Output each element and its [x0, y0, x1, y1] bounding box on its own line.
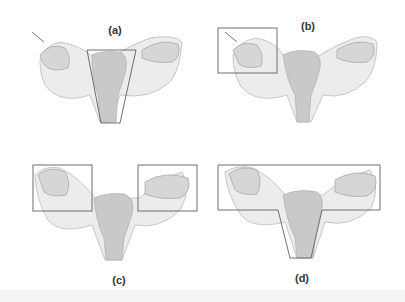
panel-c: (c)	[0, 150, 200, 300]
uterus-illustration-b	[205, 0, 405, 150]
panel-a: (a)	[0, 0, 200, 150]
uterus-drawing	[225, 32, 377, 122]
uterus-illustration-a	[0, 0, 200, 150]
uterus-drawing	[225, 167, 376, 258]
uterus-illustration-d	[205, 150, 405, 300]
panel-b: (b)	[205, 0, 405, 150]
uterus-drawing	[32, 32, 182, 122]
panel-d: (d)	[205, 150, 405, 300]
bottom-strip	[0, 290, 405, 302]
uterus-drawing	[35, 167, 189, 260]
uterus-illustration-c	[0, 150, 200, 300]
